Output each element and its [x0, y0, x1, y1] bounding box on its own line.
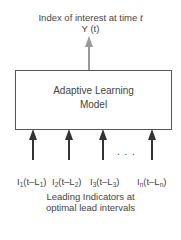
model-label-line1: Adaptive Learning	[15, 84, 172, 98]
caption-line2: optimal lead intervals	[0, 202, 181, 213]
output-arrow-icon	[85, 36, 93, 70]
input-arrow-icon-2	[65, 129, 73, 160]
inputs-caption: Leading Indicators at optimal lead inter…	[0, 191, 181, 213]
caption-line1: Leading Indicators at	[0, 191, 181, 202]
input-arrow-icon-n	[148, 129, 156, 160]
input-arrow-icon-1	[29, 129, 37, 160]
indicator-n: In(t–Ln)	[137, 176, 166, 190]
model-label: Adaptive Learning Model	[15, 84, 172, 112]
indicator-3: I3(t–L3)	[90, 176, 119, 190]
input-arrow-icon-3	[99, 129, 107, 160]
ellipsis: . . .	[117, 146, 136, 157]
indicator-1: I1(t–L1)	[17, 176, 46, 190]
indicator-2: I2(t–L2)	[52, 176, 81, 190]
model-label-line2: Model	[15, 98, 172, 112]
